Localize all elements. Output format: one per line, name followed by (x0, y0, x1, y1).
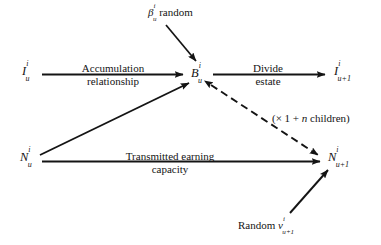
label-accumulation-relationship: Accumulation relationship (68, 62, 158, 88)
node-B-u: Biu (191, 66, 202, 81)
node-N-u-plus-1: Niu+1 (328, 150, 349, 165)
diagram-canvas: Iiu Biu Iiu+1 Niu Niu+1 βiu random Accum… (0, 0, 381, 245)
edge-beta-to-B-u (166, 25, 196, 61)
node-N-u: Niu (20, 150, 32, 165)
edge-random-nu-to-N-u-plus-1 (290, 170, 328, 213)
label-divide-estate: Divide estate (243, 62, 293, 88)
label-transmitted-earning-capacity: Transmitted earning capacity (104, 150, 236, 176)
edge-N-u-to-B-u (40, 83, 189, 155)
node-I-u: Iiu (22, 64, 30, 79)
label-children-multiplier: (× 1 + n children) (272, 112, 350, 125)
node-I-u-plus-1: Iiu+1 (334, 64, 351, 79)
label-beta-random: βiu random (148, 6, 193, 19)
label-random-nu: Random νiu+1 (238, 219, 294, 232)
